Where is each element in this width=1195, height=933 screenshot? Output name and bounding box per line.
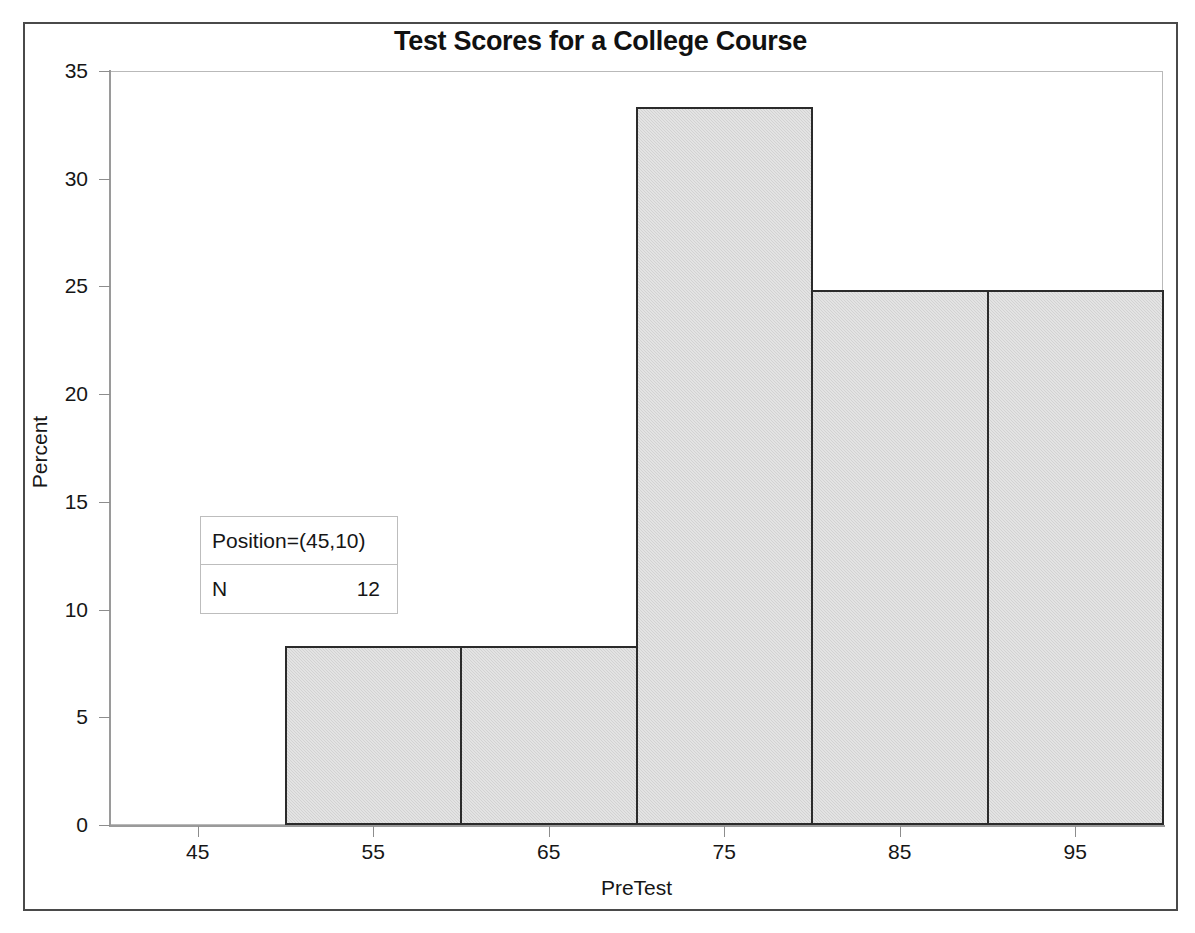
- y-axis-tick-label: 5: [26, 706, 88, 727]
- x-axis-tick: [549, 826, 550, 837]
- inset-n-value: 12: [357, 577, 380, 601]
- y-axis-tick: [99, 286, 110, 287]
- x-axis-tick: [724, 826, 725, 837]
- y-axis-tick-label: 25: [26, 275, 88, 296]
- y-axis-tick-label: 10: [26, 599, 88, 620]
- y-axis-tick-label: 30: [26, 168, 88, 189]
- histogram-bar: [811, 290, 989, 825]
- statistics-inset: Position=(45,10) N 12: [200, 516, 398, 614]
- page-title: Test Scores for a College Course: [23, 26, 1178, 57]
- histogram-bar: [636, 107, 814, 825]
- x-axis-tick-label: 45: [158, 841, 238, 862]
- histogram-bar: [987, 290, 1165, 825]
- x-axis-tick: [373, 826, 374, 837]
- x-axis-tick-label: 75: [684, 841, 764, 862]
- x-axis-tick: [1075, 826, 1076, 837]
- y-axis-tick: [99, 610, 110, 611]
- y-axis-tick: [99, 502, 110, 503]
- y-axis-ticks: 05101520253035: [0, 0, 110, 933]
- x-axis-tick: [198, 826, 199, 837]
- histogram-bar: [460, 646, 638, 825]
- histogram-bar: [285, 646, 463, 825]
- y-axis-tick-label: 35: [26, 60, 88, 81]
- x-axis-label: PreTest: [110, 876, 1163, 900]
- y-axis-tick: [99, 394, 110, 395]
- y-axis-tick: [99, 71, 110, 72]
- y-axis-tick: [99, 717, 110, 718]
- histogram-figure: Test Scores for a College Course 0510152…: [0, 0, 1195, 933]
- x-axis-tick-label: 55: [333, 841, 413, 862]
- x-axis-tick-label: 95: [1035, 841, 1115, 862]
- y-axis-tick: [99, 825, 110, 826]
- inset-position-label: Position=(45,10): [201, 517, 397, 565]
- x-axis-tick-label: 85: [860, 841, 940, 862]
- inset-n-label: N: [212, 577, 227, 601]
- y-axis-label: Percent: [28, 392, 52, 512]
- x-axis-tick: [900, 826, 901, 837]
- inset-n-row: N 12: [201, 565, 397, 613]
- y-axis-tick-label: 0: [26, 814, 88, 835]
- x-axis-line: [109, 825, 1165, 827]
- y-axis-tick: [99, 179, 110, 180]
- x-axis-tick-label: 65: [509, 841, 589, 862]
